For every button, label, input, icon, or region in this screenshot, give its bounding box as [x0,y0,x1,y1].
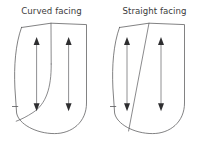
pattern-outline-straight [113,23,185,133]
grainline-arrow-curved-left [34,37,40,111]
panel-straight-facing [110,23,185,133]
grainline-arrow-curved-right [66,37,72,111]
figure-container: Curved facing Straight facing [0,0,206,150]
facing-line-curved [16,64,51,121]
facing-line-straight [129,23,149,131]
pattern-diagram-svg [0,0,206,150]
grainline-arrow-straight-right [158,37,164,111]
panel-curved-facing [12,23,87,133]
grainline-arrow-straight-left [124,37,130,111]
